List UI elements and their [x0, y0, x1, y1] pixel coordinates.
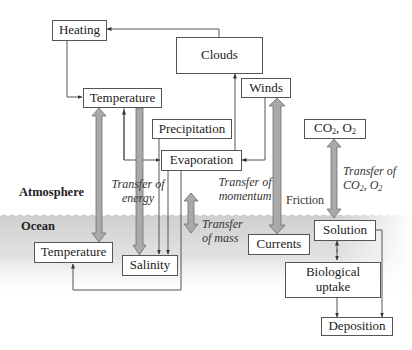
clouds-box: Clouds — [176, 37, 263, 74]
salinity-box: Salinity — [122, 255, 178, 276]
evaporation-box: Evaporation — [161, 150, 242, 171]
clouds-to-heating-arrow — [107, 29, 219, 37]
transfer-gases-label: Transfer of CO2, O2 — [343, 165, 396, 193]
deposition-box: Deposition — [321, 317, 393, 336]
winds-to-evaporation-arrow — [242, 97, 265, 160]
temperature-atmosphere-box: Temperature — [83, 88, 162, 108]
winds-box: Winds — [241, 78, 291, 98]
solution-box: Solution — [314, 220, 376, 241]
biological-uptake-box: Biological uptake — [285, 262, 381, 298]
co2-o2-atmosphere-box: CO2, O2 — [304, 119, 366, 139]
currents-box: Currents — [248, 234, 310, 255]
transfer-mass-label: Transfer of mass — [202, 218, 243, 246]
transfer-momentum-label: Transfer of momentum — [211, 176, 279, 204]
co2-o2-label: CO2, O2 — [314, 121, 356, 136]
biological-uptake-line2: uptake — [316, 280, 351, 295]
precipitation-box: Precipitation — [152, 119, 232, 139]
ocean-label: Ocean — [21, 219, 55, 233]
heating-box: Heating — [52, 20, 107, 41]
friction-label: Friction — [286, 194, 324, 208]
heating-to-temperature-arrow — [67, 40, 82, 97]
temperature-ocean-box: Temperature — [34, 242, 113, 263]
transfer-energy-label: Transfer of energy — [103, 178, 173, 206]
atmosphere-label: Atmosphere — [19, 185, 84, 199]
biological-uptake-line1: Biological — [306, 265, 360, 280]
